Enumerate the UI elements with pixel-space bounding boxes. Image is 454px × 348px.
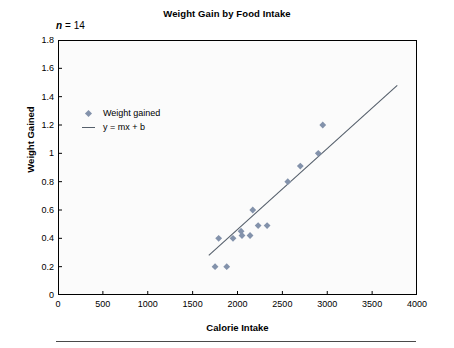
data-point — [255, 222, 262, 229]
y-tick-label: 1.2 — [12, 121, 54, 130]
data-point — [247, 232, 254, 239]
plot-canvas — [58, 40, 417, 295]
legend-item-regression-line: y = mx + b — [75, 120, 160, 134]
y-tick-label: 0.8 — [12, 177, 54, 186]
scatter-chart-figure: Weight Gain by Food Intake n= 14 Weight … — [0, 0, 454, 348]
data-point — [215, 235, 222, 242]
footer-divider — [56, 341, 416, 342]
data-point — [223, 263, 230, 270]
y-axis-tick-labels: 00.20.40.60.811.21.41.61.8 — [8, 40, 54, 295]
y-tick-label: 1.4 — [12, 92, 54, 101]
sample-size-value: 14 — [74, 20, 85, 31]
sample-size-equals: = — [65, 20, 71, 31]
y-tick-label: 1 — [12, 149, 54, 158]
trend-line — [209, 85, 397, 255]
data-point — [212, 263, 219, 270]
y-tick-label: 0.2 — [12, 262, 54, 271]
legend-item-weight-gained: Weight gained — [75, 106, 160, 120]
data-point — [297, 163, 304, 170]
diamond-marker-icon — [75, 111, 101, 116]
data-point — [315, 150, 322, 157]
y-tick-label: 1.6 — [12, 64, 54, 73]
y-tick-label: 1.8 — [12, 36, 54, 45]
data-point — [249, 207, 256, 214]
legend-label: y = mx + b — [101, 120, 145, 134]
chart-title: Weight Gain by Food Intake — [0, 8, 454, 19]
data-point — [284, 178, 291, 185]
data-point-markers — [212, 122, 327, 270]
axis-tick-marks — [58, 40, 417, 295]
line-marker-icon — [75, 127, 101, 128]
chart-legend: Weight gained y = mx + b — [75, 106, 160, 134]
sample-size-annotation: n= 14 — [56, 20, 85, 31]
data-point — [264, 222, 271, 229]
data-point — [319, 122, 326, 129]
x-axis-title: Calorie Intake — [58, 322, 417, 333]
x-axis-tick-labels: 05001000150020002500300035004000 — [58, 300, 417, 314]
y-tick-label: 0.6 — [12, 206, 54, 215]
y-tick-label: 0.4 — [12, 234, 54, 243]
x-tick-label: 4000 — [387, 300, 447, 309]
sample-size-symbol: n — [56, 20, 65, 31]
y-tick-label: 0 — [12, 291, 54, 300]
legend-label: Weight gained — [101, 106, 160, 120]
